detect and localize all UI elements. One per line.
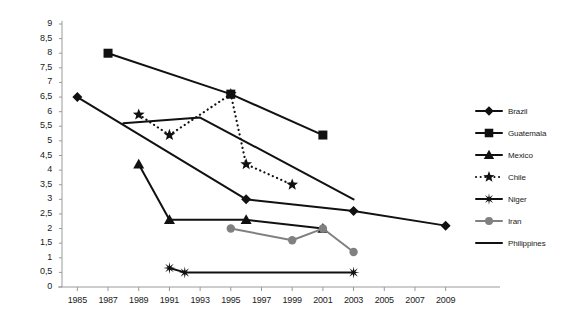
circle-marker <box>485 217 493 225</box>
legend-key-svg <box>474 167 504 187</box>
legend-key-svg <box>474 189 504 209</box>
data-point-square <box>485 129 494 138</box>
data-point-asterisk <box>179 266 191 278</box>
legend-label: Iran <box>508 217 521 226</box>
data-point-diamond <box>72 92 82 102</box>
data-point-square <box>104 49 113 58</box>
legend-marker-circle-icon <box>474 211 504 231</box>
chart-container: 00,511,522,533,544,555,566,577,588,59 19… <box>0 0 567 335</box>
legend-item-iran[interactable]: Iran <box>474 210 566 232</box>
data-point-asterisk <box>483 193 494 204</box>
legend-key-svg <box>474 211 504 231</box>
asterisk-marker <box>179 266 191 278</box>
legend-key-svg <box>474 101 504 121</box>
triangle-marker <box>133 159 144 169</box>
series-line <box>139 94 292 185</box>
asterisk-marker <box>163 262 175 274</box>
legend-marker-diamond-icon <box>474 101 504 121</box>
legend-marker-triangle-icon <box>474 145 504 165</box>
series-brazil <box>72 92 450 231</box>
diamond-marker <box>441 221 451 231</box>
circle-marker <box>288 236 296 244</box>
legend-label: Guatemala <box>508 129 546 138</box>
legend-label: Niger <box>508 195 527 204</box>
data-point-diamond <box>349 206 359 216</box>
legend-item-niger[interactable]: Niger <box>474 188 566 210</box>
data-point-triangle <box>133 159 144 169</box>
square-marker <box>485 129 494 138</box>
series-chile <box>133 88 298 190</box>
star-marker <box>483 171 494 182</box>
data-point-circle <box>485 217 493 225</box>
data-point-circle <box>349 248 357 256</box>
legend-item-brazil[interactable]: Brazil <box>474 100 566 122</box>
series-line <box>77 97 445 226</box>
data-point-asterisk <box>348 266 360 278</box>
square-marker <box>318 131 327 140</box>
data-point-diamond <box>241 194 251 204</box>
asterisk-marker <box>483 193 494 204</box>
diamond-marker <box>349 206 359 216</box>
diamond-marker <box>484 106 494 116</box>
star-marker <box>164 129 176 140</box>
circle-marker <box>319 224 327 232</box>
legend-label: Mexico <box>508 151 533 160</box>
data-point-square <box>318 131 327 140</box>
legend-key-svg <box>474 123 504 143</box>
data-point-diamond <box>484 106 494 116</box>
circle-marker <box>227 224 235 232</box>
series-iran <box>227 224 358 256</box>
legend-marker-line-icon <box>474 233 504 253</box>
asterisk-marker <box>348 266 360 278</box>
legend-key-svg <box>474 145 504 165</box>
circle-marker <box>349 248 357 256</box>
data-point-asterisk <box>163 262 175 274</box>
legend-item-guatemala[interactable]: Guatemala <box>474 122 566 144</box>
legend-marker-square-icon <box>474 123 504 143</box>
data-point-diamond <box>441 221 451 231</box>
legend-key-svg <box>474 233 504 253</box>
diamond-marker <box>72 92 82 102</box>
series-line <box>139 164 323 228</box>
legend-label: Chile <box>508 173 526 182</box>
legend-item-chile[interactable]: Chile <box>474 166 566 188</box>
star-marker <box>240 158 252 169</box>
legend-label: Brazil <box>508 107 527 116</box>
data-point-star <box>240 158 252 169</box>
legend-item-philippines[interactable]: Philippines <box>474 232 566 254</box>
data-point-star <box>483 171 494 182</box>
chart-legend: BrazilGuatemalaMexicoChileNigerIranPhili… <box>474 100 566 254</box>
data-point-star <box>286 179 298 190</box>
series-niger <box>163 262 359 278</box>
data-point-circle <box>227 224 235 232</box>
legend-item-mexico[interactable]: Mexico <box>474 144 566 166</box>
data-point-circle <box>288 236 296 244</box>
star-marker <box>286 179 298 190</box>
data-point-circle <box>319 224 327 232</box>
data-point-star <box>164 129 176 140</box>
legend-marker-asterisk-icon <box>474 189 504 209</box>
square-marker <box>104 49 113 58</box>
legend-label: Philippines <box>508 239 546 248</box>
diamond-marker <box>241 194 251 204</box>
legend-marker-star-icon <box>474 167 504 187</box>
series-line <box>169 268 353 272</box>
